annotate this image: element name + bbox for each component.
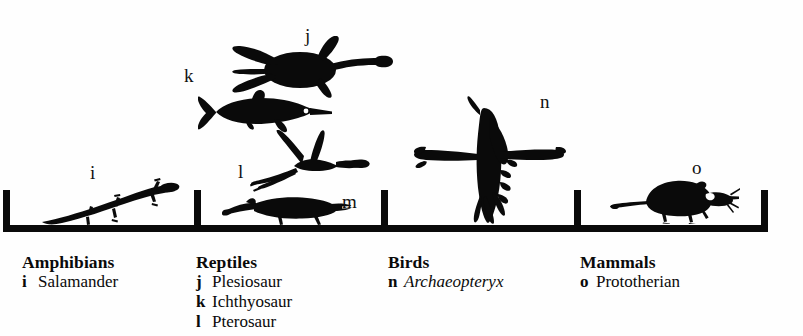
caption-title-amphibians: Amphibians [22,252,118,272]
plesiosaur-silhouette [232,36,394,98]
key-letter-k: k [184,66,194,85]
caption-column-birds: Birds n Archaeopteryx [388,252,503,292]
protothere-silhouette [610,176,740,224]
key-letter-j: j [305,26,310,45]
caption-letter-n: n [388,272,404,292]
caption-letter-j: j [196,272,212,292]
caption-title-birds: Birds [388,252,503,272]
caption-name-salamander: Salamander [38,272,118,292]
caption-title-reptiles: Reptiles [196,252,292,272]
caption-entry-k: k Ichthyosaur [196,292,292,312]
caption-entry-o: o Prototherian [580,272,680,292]
pterosaur-silhouette [250,130,370,196]
caption-letter-o: o [580,272,596,292]
key-letter-m: m [342,192,357,211]
caption-entry-n: n Archaeopteryx [388,272,503,292]
bracket-tick-birds-mammals [574,190,581,232]
figure-canvas: i j [0,0,803,336]
bracket-tick-right [761,190,768,232]
bracket-tick-amphibians-reptiles [194,190,201,232]
caption-name-archaeopteryx: Archaeopteryx [404,272,503,292]
caption-letter-k: k [196,292,212,312]
caption-name-pterosaur: Pterosaur [212,312,276,332]
key-letter-o: o [692,158,702,177]
caption-column-mammals: Mammals o Prototherian [580,252,680,292]
ichthyosaur-silhouette [198,90,334,134]
caption-name-plesiosaur: Plesiosaur [212,272,282,292]
key-letter-i: i [90,163,95,182]
caption-title-mammals: Mammals [580,252,680,272]
caption-entry-l: l Pterosaur [196,312,292,332]
salamander-silhouette [40,178,180,226]
caption-letter-l: l [196,312,212,332]
caption-entry-i: i Salamander [22,272,118,292]
archaeopteryx-silhouette [414,96,566,224]
key-letter-n: n [540,92,550,111]
caption-entry-j: j Plesiosaur [196,272,292,292]
key-letter-l: l [238,162,243,181]
caption-column-amphibians: Amphibians i Salamander [22,252,118,292]
caption-name-ichthyosaur: Ichthyosaur [212,292,292,312]
crocodilian-silhouette [222,190,352,228]
bracket-tick-left [3,190,10,232]
bracket-tick-reptiles-birds [381,190,388,232]
caption-column-reptiles: Reptiles j Plesiosaur k Ichthyosaur l Pt… [196,252,292,332]
caption-name-prototherian: Prototherian [596,272,680,292]
caption-letter-i: i [22,272,38,292]
